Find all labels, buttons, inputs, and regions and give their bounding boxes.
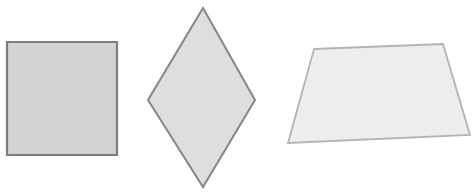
square-shape <box>7 42 117 155</box>
trapezoid-shape <box>288 44 470 143</box>
shapes-svg <box>0 0 474 192</box>
shape-canvas <box>0 0 474 192</box>
